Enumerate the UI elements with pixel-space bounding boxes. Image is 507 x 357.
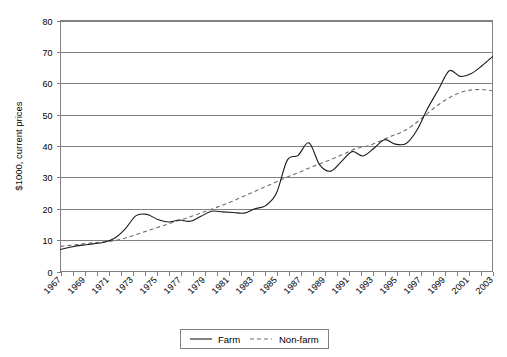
x-tick-label: 1975	[138, 275, 159, 296]
x-tick-label: 1989	[306, 275, 327, 296]
y-tick-label: 80	[42, 17, 52, 27]
x-tick-label: 1979	[186, 275, 207, 296]
y-axis-title: $1000, current prices	[13, 101, 24, 190]
y-tick-label: 60	[42, 79, 52, 89]
chart-legend: Farm Non-farm	[181, 330, 329, 349]
x-tick-label: 1973	[114, 275, 135, 296]
y-tick-label: 50	[42, 111, 52, 121]
y-tick-label: 30	[42, 173, 52, 183]
y-tick-label: 10	[42, 236, 52, 246]
x-tick-label: 1995	[378, 275, 399, 296]
x-tick-label: 2001	[450, 275, 471, 296]
x-tick-label: 1981	[210, 275, 231, 296]
x-tick-label: 1977	[162, 275, 183, 296]
x-tick-label: 1983	[234, 275, 255, 296]
x-tick-label: 1997	[402, 275, 423, 296]
chart-container: 01020304050607080 1967196919711973197519…	[0, 0, 507, 357]
x-tick-label: 2003	[474, 275, 495, 296]
x-tick-label: 1993	[354, 275, 375, 296]
y-tick-label: 20	[42, 205, 52, 215]
line-chart: 01020304050607080 1967196919711973197519…	[0, 0, 507, 357]
y-tick-label: 40	[42, 142, 52, 152]
series-line-non-farm	[61, 89, 493, 246]
y-tick-label: 70	[42, 48, 52, 58]
x-tick-label: 1991	[330, 275, 351, 296]
x-tick-label: 1985	[258, 275, 279, 296]
y-tick-label: 0	[47, 268, 52, 278]
gridlines	[61, 22, 493, 241]
legend-label-farm: Farm	[218, 334, 240, 345]
x-tick-label: 1967	[42, 275, 63, 296]
x-tick-label: 1999	[426, 275, 447, 296]
x-axis-ticks	[62, 272, 494, 276]
x-tick-label: 1971	[90, 275, 111, 296]
x-axis-tick-labels: 1967196919711973197519771979198119831985…	[42, 275, 495, 296]
y-axis-tick-labels: 01020304050607080	[42, 17, 52, 278]
y-axis-ticks	[57, 22, 61, 273]
x-tick-label: 1987	[282, 275, 303, 296]
x-tick-label: 1969	[66, 275, 87, 296]
legend-label-non-farm: Non-farm	[279, 334, 319, 345]
series-line-farm	[61, 57, 493, 250]
